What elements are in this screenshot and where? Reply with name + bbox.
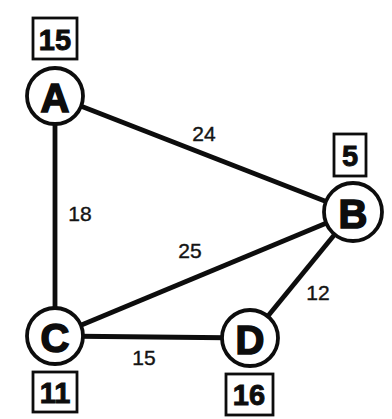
node-b-label: B bbox=[339, 192, 368, 236]
node-a-value-box: 15 bbox=[33, 18, 77, 59]
node-b-value-box: 5 bbox=[334, 134, 366, 176]
node-d-value-box: 16 bbox=[226, 374, 273, 415]
graph-diagram: 24 18 25 15 12 A B C D 15 5 bbox=[0, 0, 392, 419]
node-a: A bbox=[27, 68, 83, 124]
edge-c-b-line bbox=[55, 212, 353, 336]
node-c-label: C bbox=[41, 316, 70, 360]
edge-d-b-weight: 12 bbox=[306, 281, 329, 304]
graph-svg: 24 18 25 15 12 A B C D 15 5 bbox=[0, 0, 392, 419]
node-b-box-value: 5 bbox=[342, 140, 358, 172]
edge-a-c-weight: 18 bbox=[68, 202, 91, 225]
node-c: C bbox=[27, 308, 83, 364]
node-a-label: A bbox=[41, 76, 70, 120]
node-b: B bbox=[324, 183, 382, 241]
edge-c-d-weight: 15 bbox=[132, 346, 155, 369]
node-d: D bbox=[222, 310, 278, 366]
node-c-value-box: 11 bbox=[33, 372, 77, 412]
node-c-box-value: 11 bbox=[40, 377, 71, 409]
edge-c-b-weight: 25 bbox=[178, 239, 201, 262]
edge-a-b-weight: 24 bbox=[192, 122, 216, 145]
node-d-label: D bbox=[236, 318, 265, 362]
edge-a-b-line bbox=[55, 96, 353, 212]
node-a-box-value: 15 bbox=[39, 24, 71, 56]
node-d-box-value: 16 bbox=[233, 379, 265, 411]
